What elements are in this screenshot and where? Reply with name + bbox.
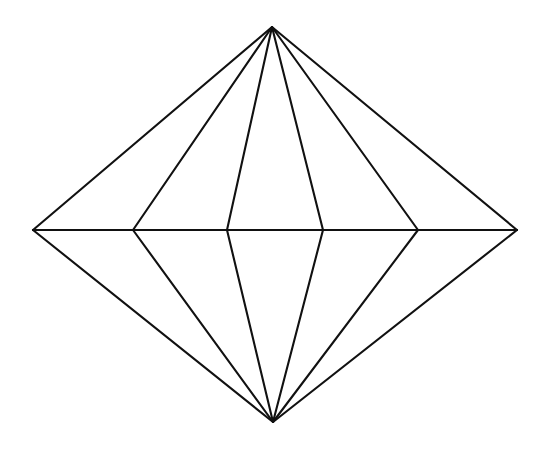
bipyramid-figure [0, 0, 547, 451]
figure-background [0, 0, 547, 451]
